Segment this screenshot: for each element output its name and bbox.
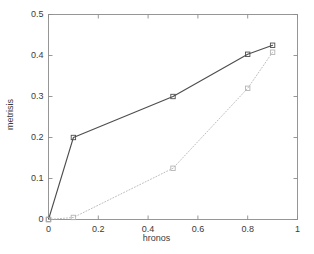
- x-tick-label: 0.8: [228, 225, 268, 234]
- plot-svg: [0, 0, 313, 254]
- x-axis-label: hronos: [0, 234, 313, 243]
- x-tick-label: 0: [29, 225, 69, 234]
- y-tick-label: 0.5: [1, 10, 44, 19]
- x-tick-label: 0.2: [78, 225, 118, 234]
- y-tick-label: 0.1: [1, 174, 44, 183]
- data-series-layer: [46, 43, 274, 222]
- series-line: [49, 45, 273, 219]
- data-series: [46, 50, 274, 222]
- axes-frame: [49, 15, 298, 220]
- figure-canvas: 00.20.40.60.8100.10.20.30.40.5 hronos me…: [0, 0, 313, 254]
- y-tick-label: 0: [1, 215, 44, 224]
- y-tick-label: 0.4: [1, 51, 44, 60]
- x-tick-label: 1: [278, 225, 314, 234]
- series-line: [49, 52, 273, 219]
- axes-box: [49, 15, 298, 220]
- y-axis-ticks: [49, 15, 298, 220]
- x-axis-ticks: [49, 15, 298, 220]
- data-series: [46, 43, 274, 222]
- y-axis-label: metrisis: [6, 95, 15, 135]
- x-tick-label: 0.6: [178, 225, 218, 234]
